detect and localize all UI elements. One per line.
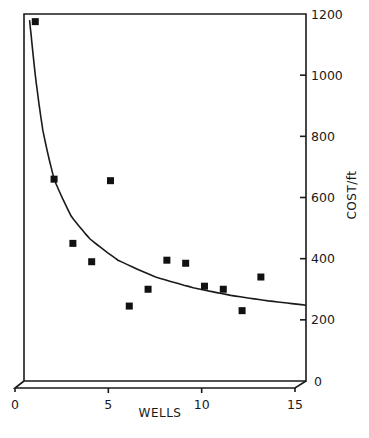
y-tick-label: 1000 bbox=[311, 68, 343, 83]
x-tick-label: 15 bbox=[287, 397, 303, 412]
data-point bbox=[257, 274, 264, 281]
data-point bbox=[69, 240, 76, 247]
data-points bbox=[32, 18, 265, 314]
y-tick-label: 1200 bbox=[311, 7, 343, 22]
y-tick-label: 400 bbox=[311, 251, 335, 266]
y-tick-label: 200 bbox=[311, 312, 335, 327]
data-point bbox=[107, 177, 114, 184]
data-point bbox=[163, 257, 170, 264]
x-tick-label: 0 bbox=[11, 397, 19, 412]
x-tick-label: 10 bbox=[194, 397, 210, 412]
y-axis-title: COST/ft bbox=[345, 170, 359, 219]
data-point bbox=[201, 283, 208, 290]
x-tick-label: 5 bbox=[104, 397, 112, 412]
data-point bbox=[88, 258, 95, 265]
y-tick-label: 800 bbox=[311, 129, 335, 144]
data-point bbox=[145, 286, 152, 293]
data-point bbox=[182, 260, 189, 267]
data-point bbox=[220, 286, 227, 293]
scatter-chart: 020040060080010001200 051015 WELLS COST/… bbox=[0, 0, 369, 438]
data-point bbox=[51, 176, 58, 183]
data-point bbox=[32, 18, 39, 25]
plot-frame bbox=[15, 14, 306, 392]
y-tick-label: 0 bbox=[314, 374, 322, 389]
data-point bbox=[239, 307, 246, 314]
data-point bbox=[126, 303, 133, 310]
x-axis-title: WELLS bbox=[139, 406, 182, 420]
y-tick-label: 600 bbox=[311, 190, 335, 205]
